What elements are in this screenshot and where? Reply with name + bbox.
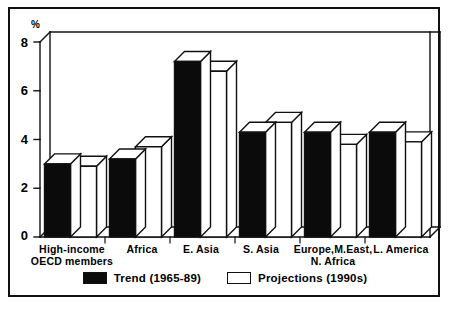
y-axis-unit-label: %: [31, 19, 40, 30]
y-tick-label-4: 4: [10, 133, 28, 146]
bar-trend-4-front: [305, 132, 331, 237]
category-label-e-asia: E. Asia: [167, 243, 235, 255]
legend-swatch-trend-icon: [83, 272, 107, 284]
category-label-africa: Africa: [108, 243, 176, 255]
legend-label-trend: Trend (1965-89): [114, 272, 201, 284]
bar-projections-0-side: [97, 156, 107, 237]
legend-item-projections: Projections (1990s): [227, 272, 367, 284]
legend-item-trend: Trend (1965-89): [83, 272, 201, 284]
bar-projections-1-side: [162, 137, 172, 237]
bar-trend-3-side: [266, 122, 276, 237]
legend-label-projections: Projections (1990s): [258, 272, 367, 284]
bar-trend-3-front: [240, 132, 266, 237]
plot-wall-right-floor-edge: [430, 227, 440, 237]
bar-trend-2-front: [175, 62, 201, 238]
y-tick-label-8: 8: [10, 36, 28, 49]
y-axis-top-connector: [40, 32, 50, 42]
legend-swatch-projections-icon: [227, 272, 251, 284]
bar-projections-2-side: [227, 61, 237, 237]
bar-trend-1-front: [110, 159, 136, 237]
chart-figure: 8 6 4 2 0 % High-income OECD members Afr…: [0, 0, 450, 311]
bar-projections-5-side: [422, 132, 432, 237]
y-tick-label-6: 6: [10, 84, 28, 97]
bar-trend-0-side: [71, 154, 81, 237]
category-label-l-america: L. America: [365, 243, 437, 255]
bar-projections-4-side: [357, 134, 367, 237]
chart-legend: Trend (1965-89) Projections (1990s): [0, 272, 450, 284]
y-tick-label-0: 0: [10, 229, 28, 242]
bar-trend-2-side: [201, 52, 211, 238]
bar-trend-0-front: [45, 164, 71, 237]
bar-trend-5-side: [396, 122, 406, 237]
bar-trend-1-side: [136, 149, 146, 237]
bar-trend-5-front: [370, 132, 396, 237]
bar-projections-3-side: [292, 112, 302, 237]
bar-trend-4-side: [331, 122, 341, 237]
category-label-s-asia: S. Asia: [229, 243, 293, 255]
y-tick-label-2: 2: [10, 181, 28, 194]
